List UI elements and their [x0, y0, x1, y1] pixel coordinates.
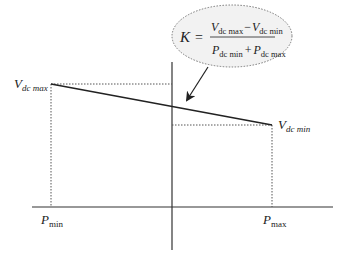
droop-diagram: K = Vdc max−Vdc min Pdc min+Pdc max Vdc …: [0, 0, 343, 262]
guide-lines: [51, 84, 272, 207]
label-p-min: Pmin: [40, 212, 63, 229]
callout-arrow: [187, 67, 208, 100]
label-vdc-min: Vdc min: [278, 117, 311, 134]
droop-line: [51, 84, 272, 125]
formula-k: K: [179, 29, 191, 45]
label-p-max: Pmax: [262, 212, 287, 229]
formula-equals: =: [195, 30, 203, 45]
label-vdc-max: Vdc max: [14, 76, 48, 93]
